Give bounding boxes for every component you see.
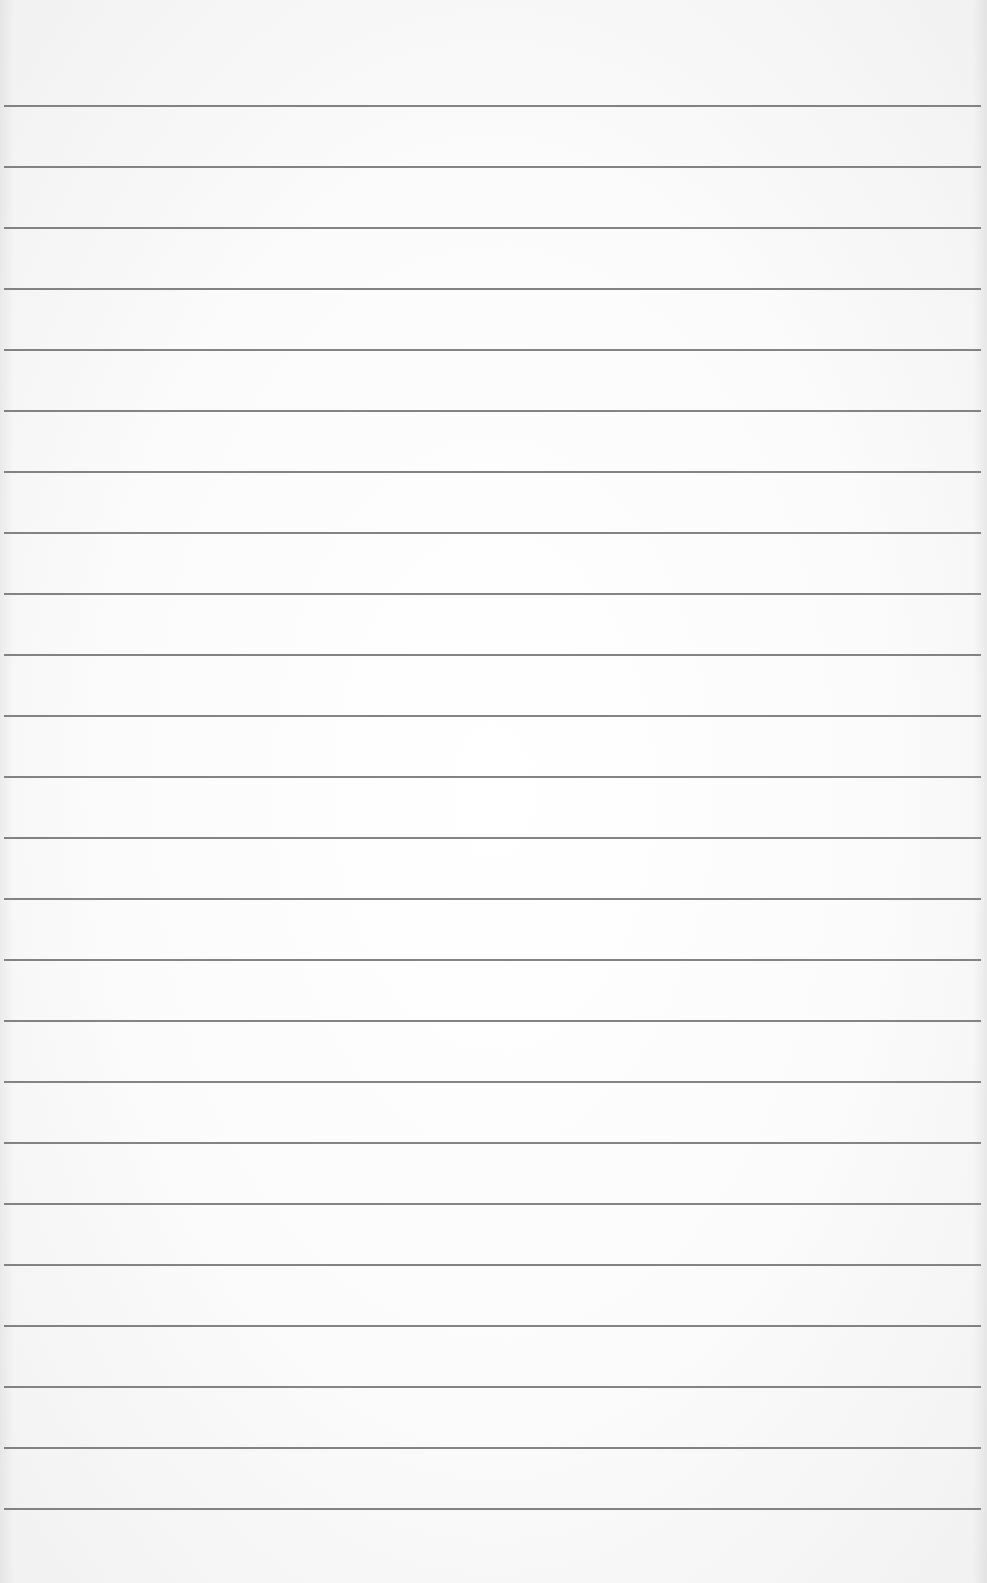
ruled-line: [4, 1020, 981, 1022]
ruled-line: [4, 288, 981, 290]
ruled-line: [4, 715, 981, 717]
ruled-line: [4, 1203, 981, 1205]
ruled-line: [4, 1447, 981, 1449]
ruled-line: [4, 227, 981, 229]
ruled-line: [4, 776, 981, 778]
ruled-line: [4, 349, 981, 351]
ruled-line: [4, 837, 981, 839]
lined-paper-sheet: [0, 0, 987, 1583]
ruled-line: [4, 654, 981, 656]
ruled-line: [4, 593, 981, 595]
ruled-line: [4, 1508, 981, 1510]
ruled-line: [4, 959, 981, 961]
ruled-line: [4, 471, 981, 473]
ruled-line: [4, 1325, 981, 1327]
ruled-line: [4, 1264, 981, 1266]
ruled-line: [4, 1081, 981, 1083]
ruled-line: [4, 166, 981, 168]
ruled-line: [4, 1386, 981, 1388]
ruled-line: [4, 105, 981, 107]
ruled-line: [4, 1142, 981, 1144]
ruled-line: [4, 898, 981, 900]
ruled-line: [4, 410, 981, 412]
ruled-line: [4, 532, 981, 534]
